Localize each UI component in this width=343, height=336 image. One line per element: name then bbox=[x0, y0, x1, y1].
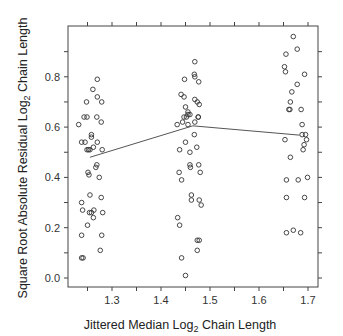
y-tick-label: 0.8 bbox=[45, 71, 60, 83]
data-point bbox=[188, 150, 193, 155]
data-point bbox=[290, 90, 295, 95]
data-point bbox=[182, 95, 187, 100]
data-point bbox=[88, 193, 93, 198]
data-point bbox=[304, 137, 309, 142]
data-point bbox=[95, 95, 100, 100]
data-point bbox=[196, 80, 201, 85]
data-point bbox=[95, 140, 100, 145]
data-points bbox=[76, 34, 309, 278]
x-tick-label: 1.4 bbox=[153, 294, 168, 306]
scatter-chart: 1.31.41.51.61.7 0.00.20.40.60.8 Jittered… bbox=[0, 0, 343, 336]
x-tick-label: 1.3 bbox=[104, 294, 119, 306]
x-tick-label: 1.7 bbox=[300, 294, 315, 306]
data-point bbox=[99, 100, 104, 105]
data-point bbox=[299, 107, 304, 112]
data-point bbox=[85, 115, 90, 120]
data-point bbox=[193, 120, 198, 125]
x-axis-label: Jittered Median Log2 Chain Length bbox=[84, 318, 277, 334]
x-tick-label: 1.6 bbox=[251, 294, 266, 306]
data-point bbox=[196, 163, 201, 168]
data-point bbox=[80, 208, 85, 213]
y-tick-labels: 0.00.20.40.60.8 bbox=[45, 71, 60, 284]
data-point bbox=[186, 122, 191, 127]
y-tick-label: 0.2 bbox=[45, 222, 60, 234]
data-point bbox=[302, 195, 307, 200]
data-point bbox=[283, 69, 288, 74]
data-point bbox=[97, 175, 102, 180]
data-point bbox=[91, 145, 96, 150]
data-point bbox=[194, 145, 199, 150]
data-point bbox=[303, 132, 308, 137]
x-tick-label: 1.5 bbox=[202, 294, 217, 306]
y-axis-label: Square Root Absolute Residual Log2 Chain… bbox=[16, 17, 32, 298]
y-tick-label: 0.6 bbox=[45, 121, 60, 133]
data-point bbox=[183, 273, 188, 278]
smooth-line bbox=[90, 126, 300, 157]
data-point bbox=[300, 122, 305, 127]
data-point bbox=[175, 215, 180, 220]
plot-frame bbox=[68, 26, 318, 287]
data-point bbox=[99, 195, 104, 200]
data-point bbox=[189, 198, 194, 203]
data-point bbox=[91, 87, 96, 92]
data-point bbox=[179, 178, 184, 183]
data-point bbox=[295, 47, 300, 52]
data-point bbox=[99, 233, 104, 238]
data-point bbox=[283, 137, 288, 142]
data-point bbox=[189, 193, 194, 198]
data-point bbox=[95, 115, 100, 120]
data-point bbox=[193, 59, 198, 64]
data-point bbox=[192, 132, 197, 137]
y-tick-label: 0.0 bbox=[45, 272, 60, 284]
data-point bbox=[198, 170, 203, 175]
data-point bbox=[296, 178, 301, 183]
data-point bbox=[284, 230, 289, 235]
data-point bbox=[183, 105, 188, 110]
data-point bbox=[175, 122, 180, 127]
data-point bbox=[179, 256, 184, 261]
data-point bbox=[84, 100, 89, 105]
data-point bbox=[291, 228, 296, 233]
data-point bbox=[76, 122, 81, 127]
data-point bbox=[305, 175, 310, 180]
data-point bbox=[195, 248, 200, 253]
x-tick-labels: 1.31.41.51.61.7 bbox=[104, 294, 315, 306]
data-point bbox=[197, 198, 202, 203]
data-point bbox=[79, 200, 84, 205]
y-tick-label: 0.4 bbox=[45, 171, 60, 183]
data-point bbox=[301, 147, 306, 152]
data-point bbox=[295, 82, 300, 87]
data-point bbox=[177, 223, 182, 228]
data-point bbox=[179, 92, 184, 97]
data-point bbox=[180, 120, 185, 125]
data-point bbox=[199, 203, 204, 208]
data-point bbox=[196, 115, 201, 120]
data-point bbox=[85, 223, 90, 228]
data-point bbox=[183, 140, 188, 145]
data-point bbox=[288, 155, 293, 160]
data-point bbox=[302, 142, 307, 147]
data-point bbox=[98, 248, 103, 253]
data-point bbox=[83, 140, 88, 145]
data-point bbox=[291, 34, 296, 39]
data-point bbox=[100, 210, 105, 215]
data-point bbox=[288, 100, 293, 105]
data-point bbox=[99, 120, 104, 125]
data-point bbox=[282, 64, 287, 69]
data-point bbox=[177, 147, 182, 152]
data-point bbox=[284, 52, 289, 57]
data-point bbox=[95, 77, 100, 82]
data-point bbox=[284, 178, 289, 183]
data-point bbox=[177, 170, 182, 175]
data-point bbox=[100, 147, 105, 152]
data-point bbox=[298, 230, 303, 235]
data-point bbox=[79, 233, 84, 238]
data-point bbox=[302, 72, 307, 77]
data-point bbox=[284, 195, 289, 200]
data-point bbox=[182, 77, 187, 82]
data-point bbox=[91, 215, 96, 220]
